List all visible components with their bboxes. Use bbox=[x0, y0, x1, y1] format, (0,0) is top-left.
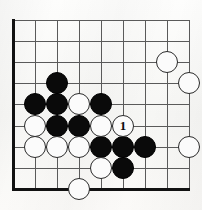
stone-black[interactable] bbox=[68, 115, 90, 137]
stone-white[interactable] bbox=[68, 178, 90, 200]
stone-black[interactable] bbox=[90, 93, 112, 115]
stone-white[interactable] bbox=[24, 115, 46, 137]
stone-white-move-1[interactable]: 1 bbox=[112, 115, 134, 137]
stone-white[interactable] bbox=[90, 115, 112, 137]
stone-black[interactable] bbox=[112, 157, 134, 179]
grid-line-horizontal-2 bbox=[13, 41, 189, 42]
stone-white[interactable] bbox=[68, 93, 90, 115]
stone-white[interactable] bbox=[156, 51, 178, 73]
stone-black[interactable] bbox=[46, 72, 68, 94]
board-grid-area: 1 bbox=[0, 0, 202, 210]
stone-white[interactable] bbox=[178, 136, 200, 158]
stone-white[interactable] bbox=[46, 136, 68, 158]
grid-line-horizontal-4 bbox=[13, 83, 189, 84]
board-edge-bottom bbox=[12, 188, 190, 191]
grid-line-vertical-9 bbox=[189, 20, 190, 189]
stone-black[interactable] bbox=[112, 136, 134, 158]
stone-black[interactable] bbox=[134, 136, 156, 158]
board-edge-left bbox=[12, 19, 15, 191]
stone-black[interactable] bbox=[90, 136, 112, 158]
stone-white[interactable] bbox=[178, 72, 200, 94]
grid-line-horizontal-1 bbox=[13, 20, 189, 21]
go-board-diagram: 1 bbox=[0, 0, 202, 210]
stone-white[interactable] bbox=[68, 136, 90, 158]
stone-black[interactable] bbox=[24, 93, 46, 115]
stone-black[interactable] bbox=[46, 93, 68, 115]
stone-white[interactable] bbox=[90, 157, 112, 179]
stone-white[interactable] bbox=[24, 136, 46, 158]
stone-move-number-label: 1 bbox=[113, 116, 133, 136]
stone-black[interactable] bbox=[46, 115, 68, 137]
